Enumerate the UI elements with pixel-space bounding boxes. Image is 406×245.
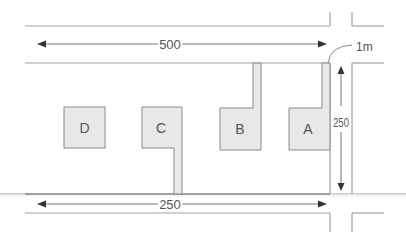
- corner-radius-label: 1m: [356, 40, 373, 54]
- arrow-up-icon: [338, 66, 345, 74]
- building-b-label: B: [235, 121, 244, 137]
- dimension-top: 500: [37, 37, 327, 52]
- building-c: C: [142, 107, 182, 194]
- dimension-top-label: 500: [159, 37, 181, 52]
- dimension-vertical: 250: [333, 66, 349, 191]
- arrow-left-icon: [37, 41, 46, 48]
- building-a: A: [289, 63, 330, 150]
- building-b: B: [220, 63, 261, 150]
- dimension-vertical-label: 250: [333, 115, 349, 130]
- building-a-label: A: [303, 121, 313, 137]
- building-d: D: [64, 107, 105, 148]
- arrow-right-icon: [318, 201, 327, 208]
- bottom-road: [0, 193, 406, 232]
- building-c-label: C: [156, 120, 166, 136]
- dimension-bottom-label: 250: [159, 197, 181, 212]
- building-d-label: D: [79, 120, 89, 136]
- corner-radius-curve: [328, 45, 352, 63]
- arrow-left-icon: [37, 201, 46, 208]
- dimension-bottom: 250: [37, 197, 327, 212]
- corner-annotation: 1m: [328, 40, 373, 63]
- site-plan-diagram: D C B A 500 1m 250 250: [0, 0, 406, 245]
- arrow-right-icon: [318, 41, 327, 48]
- arrow-down-icon: [338, 183, 345, 191]
